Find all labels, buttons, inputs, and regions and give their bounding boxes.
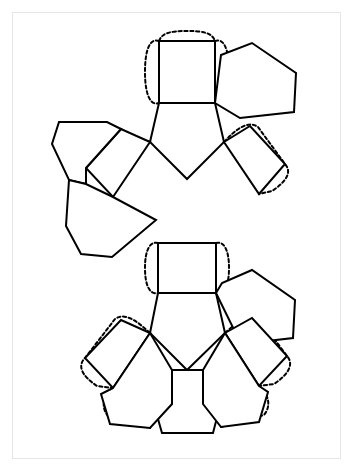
net-face-square: Central connecting square — [158, 243, 216, 293]
net-face-square: Top square — [159, 41, 215, 103]
net-face-pentagon: Upper right pentagon — [215, 43, 296, 118]
net-faces-group: Top squareUpper central pentagonUpper ri… — [52, 41, 296, 433]
glue-tab: Central square left glue tab — [145, 243, 158, 294]
net-template-page: Top square left glue tabTop square top g… — [0, 0, 354, 472]
polyhedron-net-drawing: Top square left glue tabTop square top g… — [0, 0, 354, 472]
net-face-pentagon: Upper central pentagon — [150, 103, 224, 179]
glue-tab: Top square left glue tab — [145, 40, 159, 103]
net-face-square: Upper right tilted square — [224, 126, 285, 194]
glue-tab: Top square top glue tab — [159, 31, 215, 41]
